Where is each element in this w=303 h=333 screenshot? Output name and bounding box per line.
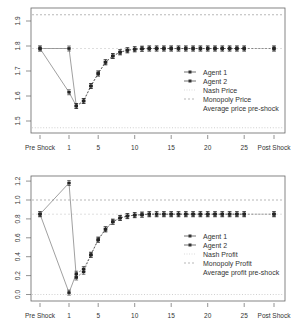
legend-agent-1: Agent 1 xyxy=(203,233,227,241)
data-point-agent-2 xyxy=(155,212,159,217)
x-tick-label: 20 xyxy=(204,144,212,151)
data-point-agent-2 xyxy=(75,271,79,276)
data-point-agent-2 xyxy=(148,46,152,51)
x-tick-label: 5 xyxy=(96,144,100,151)
price-chart: 1.51.61.71.81.9 Pre Shock1510152025Post … xyxy=(14,8,291,151)
legend-agent-2: Agent 2 xyxy=(203,242,227,250)
x-tick-label: 15 xyxy=(168,312,176,319)
data-point-agent-2 xyxy=(242,212,246,217)
data-point-agent-2 xyxy=(199,46,203,51)
data-point-agent-2 xyxy=(162,212,166,217)
x-tick-label: 10 xyxy=(131,144,139,151)
y-tick-label: 1.9 xyxy=(14,16,21,25)
data-point-agent-2 xyxy=(228,46,232,51)
y-tick-label: 1.2 xyxy=(14,176,21,185)
data-point-agent-2 xyxy=(213,212,217,217)
data-point-agent-2 xyxy=(272,212,276,217)
data-point-agent-2 xyxy=(111,219,115,224)
data-point-agent-2 xyxy=(111,54,115,59)
data-point-agent-2 xyxy=(104,227,108,232)
y-tick-label: 1.6 xyxy=(14,91,21,100)
y-tick-label: 1.8 xyxy=(14,41,21,50)
data-point-agent-2 xyxy=(184,212,188,217)
x-tick-label: Post Shock xyxy=(258,144,292,151)
y-tick-label: 0.0 xyxy=(14,290,21,299)
data-point-agent-2 xyxy=(191,46,195,51)
data-point-agent-2 xyxy=(272,46,276,51)
y-axis: 0.00.20.40.60.81.01.2 xyxy=(14,176,31,299)
legend-average-price: Average price pre-shock xyxy=(203,105,279,113)
x-tick-label: Pre Shock xyxy=(25,144,56,151)
x-tick-label: 1 xyxy=(67,312,71,319)
data-point-agent-2 xyxy=(169,212,173,217)
data-point-agent-2 xyxy=(235,212,239,217)
data-point-agent-2 xyxy=(169,46,173,51)
legend-agent-1: Agent 1 xyxy=(203,69,227,77)
data-point-agent-2 xyxy=(118,215,122,220)
data-point-agent-2 xyxy=(133,47,137,52)
x-tick-label: 25 xyxy=(241,312,249,319)
x-tick-label: Pre Shock xyxy=(25,312,56,319)
data-point-agent-2 xyxy=(221,46,225,51)
data-point-agent-2 xyxy=(206,212,210,217)
legend: Agent 1 Agent 2 Nash Price Monopoly Pric… xyxy=(184,69,279,113)
series xyxy=(38,180,276,295)
data-point-agent-2 xyxy=(104,60,108,65)
x-tick-label: Post Shock xyxy=(258,312,292,319)
data-point-agent-2 xyxy=(89,84,93,89)
data-point-agent-2 xyxy=(133,213,137,218)
legend-agent-2: Agent 2 xyxy=(203,78,227,86)
x-tick-label: 15 xyxy=(168,144,176,151)
x-tick-label: 5 xyxy=(96,312,100,319)
figure: 1.51.61.71.81.9 Pre Shock1510152025Post … xyxy=(0,0,303,333)
y-axis: 1.51.61.71.81.9 xyxy=(14,16,31,125)
data-point-agent-2 xyxy=(235,46,239,51)
data-point-agent-2 xyxy=(140,212,144,217)
y-tick-label: 0.2 xyxy=(14,271,21,280)
data-point-agent-2 xyxy=(162,46,166,51)
data-point-agent-2 xyxy=(177,46,181,51)
data-point-agent-2 xyxy=(191,212,195,217)
y-tick-label: 1.7 xyxy=(14,66,21,75)
data-point-agent-2 xyxy=(199,212,203,217)
data-point-agent-2 xyxy=(184,46,188,51)
legend-monopoly-profit: Monopoly Profit xyxy=(203,260,252,268)
data-point-agent-2 xyxy=(206,46,210,51)
x-tick-label: 10 xyxy=(131,312,139,319)
y-tick-label: 1.0 xyxy=(14,195,21,204)
data-point-agent-2 xyxy=(89,252,93,257)
legend-average-profit: Average profit pre-shock xyxy=(203,269,280,277)
profit-chart: 0.00.20.40.60.81.01.2 Pre Shock151015202… xyxy=(14,176,291,319)
y-tick-label: 0.4 xyxy=(14,252,21,261)
legend-nash-price: Nash Price xyxy=(203,87,237,94)
y-tick-label: 1.5 xyxy=(14,116,21,125)
data-point-agent-2 xyxy=(177,212,181,217)
legend-nash-profit: Nash Profit xyxy=(203,251,238,258)
data-point-agent-2 xyxy=(67,46,71,51)
legend: Agent 1 Agent 2 Nash Profit Monopoly Pro… xyxy=(184,233,280,277)
x-axis: Pre Shock1510152025Post Shock xyxy=(25,303,291,319)
x-tick-label: 25 xyxy=(241,144,249,151)
x-tick-label: 20 xyxy=(204,312,212,319)
data-point-agent-2 xyxy=(221,212,225,217)
data-point-agent-2 xyxy=(148,212,152,217)
data-point-agent-2 xyxy=(228,212,232,217)
data-point-agent-2 xyxy=(242,46,246,51)
data-point-agent-2 xyxy=(82,99,86,104)
data-point-agent-2 xyxy=(118,50,122,55)
plot-frame xyxy=(31,8,285,133)
x-axis: Pre Shock1510152025Post Shock xyxy=(25,135,291,151)
data-point-agent-2 xyxy=(140,46,144,51)
data-point-agent-2 xyxy=(67,290,71,295)
y-tick-label: 0.6 xyxy=(14,233,21,242)
plot-frame xyxy=(31,176,285,301)
data-point-agent-2 xyxy=(155,46,159,51)
x-tick-label: 1 xyxy=(67,144,71,151)
data-point-agent-2 xyxy=(213,46,217,51)
y-tick-label: 0.8 xyxy=(14,214,21,223)
legend-monopoly-price: Monopoly Price xyxy=(203,96,251,104)
